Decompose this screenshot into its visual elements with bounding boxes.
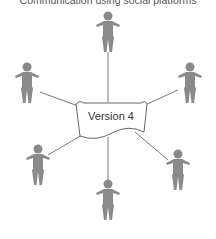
- line-bottom-right: [135, 132, 168, 160]
- person-icon: [178, 63, 202, 104]
- person-icon: [166, 150, 190, 191]
- person-icon: [26, 145, 50, 186]
- person-icon: [15, 63, 39, 104]
- line-left: [40, 92, 78, 106]
- person-icon: [96, 12, 120, 53]
- diagram: Communication using social platforms Ver…: [0, 0, 216, 239]
- person-icon: [96, 180, 120, 221]
- line-right: [143, 90, 178, 106]
- line-bottom-left: [48, 135, 82, 155]
- document-label: Version 4: [76, 110, 146, 122]
